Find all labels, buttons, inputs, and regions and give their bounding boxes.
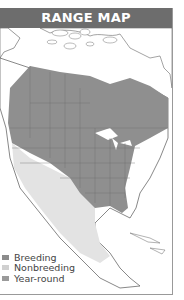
breeding-swatch — [2, 255, 9, 260]
map-legend: Breeding Nonbreeding Year-round — [2, 252, 75, 284]
legend-item-breeding: Breeding — [2, 252, 75, 262]
legend-label: Breeding — [14, 252, 57, 263]
legend-label: Year-round — [14, 273, 65, 284]
legend-item-yearround: Year-round — [2, 273, 75, 283]
nonbreeding-swatch — [2, 265, 9, 270]
yearround-swatch — [2, 276, 9, 281]
legend-item-nonbreeding: Nonbreeding — [2, 263, 75, 273]
legend-label: Nonbreeding — [14, 262, 75, 273]
map-title: RANGE MAP — [0, 8, 172, 28]
